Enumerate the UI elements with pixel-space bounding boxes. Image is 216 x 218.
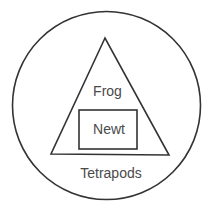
nested-set-diagram: Frog Newt Tetrapods	[0, 0, 216, 218]
frog-label: Frog	[93, 83, 122, 99]
tetrapods-label: Tetrapods	[80, 165, 141, 181]
newt-label: Newt	[93, 121, 125, 137]
